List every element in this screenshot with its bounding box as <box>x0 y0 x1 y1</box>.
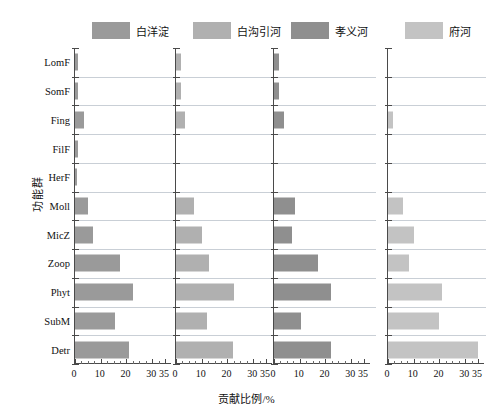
grid-line <box>75 278 177 279</box>
y-axis-tick <box>271 249 278 250</box>
plot-area <box>175 48 273 364</box>
legend-label: 白沟引河 <box>237 23 281 39</box>
bar <box>274 312 301 329</box>
x-axis-tick-label: 10 <box>408 368 418 379</box>
y-axis-tick <box>72 278 79 279</box>
y-axis-tick <box>385 364 392 365</box>
x-axis-tick-label: 10 <box>95 368 105 379</box>
x-axis-tick-label: 10 <box>294 368 304 379</box>
bar <box>75 198 88 215</box>
bar <box>388 111 393 128</box>
x-axis-minor-tick <box>195 361 196 364</box>
grid-line <box>274 77 376 78</box>
x-axis-minor-tick <box>319 361 320 364</box>
y-axis-tick <box>72 307 79 308</box>
grid-line <box>388 307 486 308</box>
y-axis-tick <box>271 192 278 193</box>
y-axis-tick <box>173 249 180 250</box>
x-axis-minor-tick <box>287 361 288 364</box>
x-axis-tick <box>364 359 365 364</box>
grid-line <box>75 192 177 193</box>
grid-line <box>274 278 376 279</box>
y-axis-tick <box>173 307 180 308</box>
x-axis-minor-tick <box>338 361 339 364</box>
x-axis-minor-tick <box>182 361 183 364</box>
x-axis-minor-tick <box>446 361 447 364</box>
x-axis-minor-tick <box>221 361 222 364</box>
x-axis-tick-label: 30 <box>146 368 156 379</box>
y-axis-category-label: FilF <box>20 143 70 154</box>
legend-label: 府河 <box>449 23 471 39</box>
bar <box>274 284 331 301</box>
grid-line <box>176 105 278 106</box>
bar <box>75 54 78 71</box>
grid-line <box>274 307 376 308</box>
y-axis-category-label: Detr <box>20 344 70 355</box>
legend-2: 白沟引河 <box>193 22 281 39</box>
legend-3: 孝义河 <box>291 22 368 39</box>
y-axis-category-label: Phyt <box>20 287 70 298</box>
y-axis-tick <box>385 134 392 135</box>
y-axis-category-label: Moll <box>20 201 70 212</box>
y-axis-tick <box>271 163 278 164</box>
y-axis-tick <box>173 364 180 365</box>
x-axis-line <box>176 363 272 364</box>
chart-panel <box>273 48 371 364</box>
grid-line <box>274 134 376 135</box>
y-axis-category-label: MicZ <box>20 229 70 240</box>
x-axis-minor-tick <box>133 361 134 364</box>
y-axis-tick <box>173 48 180 49</box>
x-axis-tick-label: 0 <box>72 368 77 379</box>
y-axis-tick <box>173 335 180 336</box>
grid-line <box>388 163 486 164</box>
bar <box>176 83 181 100</box>
y-axis-category-label: LomF <box>20 57 70 68</box>
y-axis-tick <box>72 249 79 250</box>
y-axis-category-label: Fing <box>20 114 70 125</box>
y-axis-tick <box>173 278 180 279</box>
x-axis-tick-label: 20 <box>221 368 231 379</box>
x-axis-minor-tick <box>472 361 473 364</box>
bar <box>176 255 209 272</box>
x-axis-minor-tick <box>94 361 95 364</box>
x-axis-tick <box>227 359 228 364</box>
grid-line <box>388 220 486 221</box>
x-axis-tick-label: 20 <box>433 368 443 379</box>
y-axis-tick <box>173 77 180 78</box>
grid-line <box>75 335 177 336</box>
grid-line <box>274 335 376 336</box>
x-axis-tick-label: 20 <box>319 368 329 379</box>
bar <box>75 312 115 329</box>
y-axis-tick <box>173 134 180 135</box>
x-axis-tick-label: 35 <box>358 368 368 379</box>
y-axis-tick <box>385 77 392 78</box>
x-axis-minor-tick <box>215 361 216 364</box>
x-axis-minor-tick <box>120 361 121 364</box>
y-axis-tick <box>72 134 79 135</box>
bar <box>274 83 279 100</box>
y-axis-category-label: Zoop <box>20 258 70 269</box>
x-axis-minor-tick <box>114 361 115 364</box>
x-axis-minor-tick <box>88 361 89 364</box>
y-axis-tick <box>385 335 392 336</box>
x-axis-minor-tick <box>407 361 408 364</box>
y-axis-category-label: SubM <box>20 315 70 326</box>
x-axis-tick <box>126 359 127 364</box>
x-axis-minor-tick <box>208 361 209 364</box>
y-axis-tick <box>72 364 79 365</box>
x-axis-minor-tick <box>247 361 248 364</box>
y-axis-tick <box>72 163 79 164</box>
bar <box>75 111 84 128</box>
x-axis-minor-tick <box>394 361 395 364</box>
x-axis-minor-tick <box>427 361 428 364</box>
chart-figure: 功能群 LomFSomFFingFilFHerFMollMicZZoopPhyt… <box>0 0 493 420</box>
grid-line <box>176 77 278 78</box>
y-axis-tick <box>173 220 180 221</box>
y-axis-tick <box>385 249 392 250</box>
x-axis-minor-tick <box>332 361 333 364</box>
y-axis-tick <box>72 105 79 106</box>
y-axis-tick <box>173 192 180 193</box>
y-axis-tick <box>271 134 278 135</box>
grid-line <box>75 163 177 164</box>
y-axis-tick <box>271 307 278 308</box>
